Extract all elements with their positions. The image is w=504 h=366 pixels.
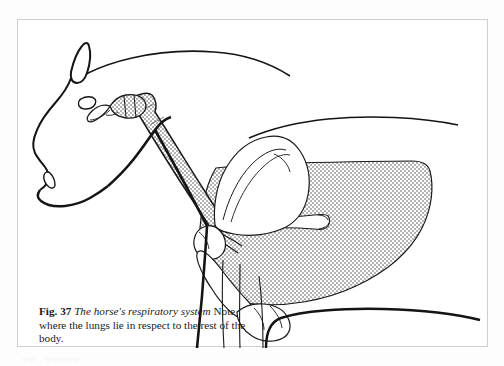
page-bleed-artifact: ww . wwwww — [22, 354, 322, 364]
ear-shape — [71, 43, 90, 83]
figure-caption: Fig. 37 The horse's respiratory system N… — [39, 305, 249, 346]
figure-frame: Fig. 37 The horse's respiratory system N… — [17, 19, 488, 347]
scapula-shape — [214, 136, 309, 235]
eye-shape — [79, 97, 96, 109]
figure-illustration — [18, 20, 489, 348]
figure-title: The horse's respiratory system — [74, 305, 211, 317]
book-page: Fig. 37 The horse's respiratory system N… — [0, 0, 504, 366]
figure-number: Fig. 37 — [39, 305, 71, 317]
